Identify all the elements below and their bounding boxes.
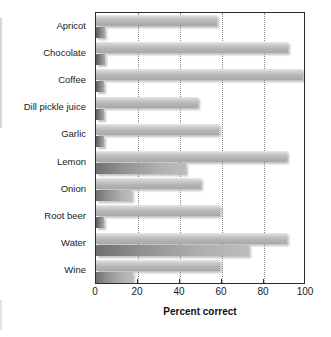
x-tick-label-60: 60: [215, 286, 226, 297]
page-edge-artifact-lower: [0, 300, 2, 330]
bar-lower: [96, 136, 104, 147]
bar-group: [96, 176, 304, 203]
bar-upper: [96, 42, 288, 53]
x-tick-label-40: 40: [173, 286, 184, 297]
bar-group: [96, 203, 304, 230]
x-tick-label-20: 20: [131, 286, 142, 297]
category-label-root-beer: Root beer: [44, 211, 86, 221]
bar-group: [96, 231, 304, 258]
x-tick-mark-40: [179, 279, 180, 284]
x-tick-mark-80: [263, 279, 264, 284]
category-label-garlic: Garlic: [61, 129, 86, 139]
category-label-apricot: Apricot: [56, 21, 86, 31]
bar-upper: [96, 178, 201, 189]
bar-lower: [96, 245, 249, 256]
bar-group: [96, 67, 304, 94]
category-label-lemon: Lemon: [57, 157, 86, 167]
x-tick-mark-60: [221, 279, 222, 284]
category-label-wine: Wine: [64, 265, 86, 275]
x-tick-mark-100: [304, 279, 305, 284]
bar-group: [96, 40, 304, 67]
bar-upper: [96, 124, 219, 135]
category-label-chocolate: Chocolate: [43, 48, 86, 58]
bar-lower: [96, 81, 104, 92]
x-tick-mark-20: [137, 279, 138, 284]
bar-upper: [96, 15, 217, 26]
bar-upper: [96, 260, 220, 271]
bar-chart-figure: ApricotChocolateCoffeeDill pickle juiceG…: [0, 0, 331, 337]
bar-group: [96, 122, 304, 149]
category-label-onion: Onion: [61, 184, 86, 194]
bar-lower: [96, 190, 132, 201]
bar-lower: [96, 163, 186, 174]
x-tick-label-100: 100: [297, 286, 314, 297]
bar-upper: [96, 233, 287, 244]
x-axis-title: Percent correct: [95, 306, 305, 317]
bar-lower: [96, 109, 104, 120]
bar-lower: [96, 54, 105, 65]
category-label-dill-pickle-juice: Dill pickle juice: [24, 102, 86, 112]
x-tick-mark-0: [95, 279, 96, 284]
category-label-coffee: Coffee: [58, 75, 86, 85]
x-tick-label-0: 0: [92, 286, 98, 297]
category-label-water: Water: [61, 238, 86, 248]
bar-group: [96, 258, 304, 284]
bar-group: [96, 95, 304, 122]
bar-lower: [96, 272, 133, 283]
bar-upper: [96, 69, 303, 80]
category-axis-labels: ApricotChocolateCoffeeDill pickle juiceG…: [0, 12, 91, 284]
bar-upper: [96, 205, 220, 216]
bar-lower: [96, 27, 105, 38]
bar-lower: [96, 217, 104, 228]
plot-area: [95, 12, 305, 284]
bar-group: [96, 13, 304, 40]
x-tick-label-80: 80: [257, 286, 268, 297]
x-axis-ticks: 020406080100: [95, 284, 305, 300]
bar-upper: [96, 97, 198, 108]
bar-group: [96, 149, 304, 176]
bar-upper: [96, 151, 287, 162]
